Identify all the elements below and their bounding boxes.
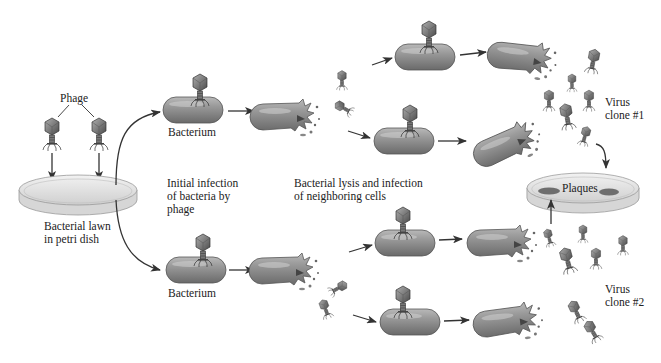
lysed-top-a [485, 36, 560, 83]
virus-clone-1-line2: clone #1 [605, 108, 644, 122]
virus-clone-1-phages [543, 48, 602, 147]
plaques-label: Plaques [562, 182, 598, 195]
bacterium-top [163, 74, 223, 123]
initial-infection-line1: Initial infection [167, 176, 238, 190]
petri-dish-lawn [19, 175, 137, 215]
lysis-label-line1: Bacterial lysis and infection [294, 176, 423, 190]
bacterium-bottom [166, 234, 226, 283]
lysed-bottom-b [471, 300, 545, 344]
phage-1 [43, 118, 61, 151]
branch-arrows-top [348, 58, 392, 138]
arrow [460, 52, 486, 55]
phage-2 [90, 118, 108, 151]
bacterium-bottom-b [380, 286, 440, 335]
released-phages-top [333, 71, 356, 118]
lawn-label-line2: in petri dish [44, 232, 99, 246]
bacterium-top-b [374, 105, 434, 154]
initial-infection-line3: phage [167, 202, 194, 216]
lysed-bottom-a [467, 225, 537, 262]
virus-clone-2-line1: Virus [605, 282, 630, 296]
plaque-2 [599, 189, 619, 196]
lysed-top-b [468, 115, 547, 176]
lysed-top [250, 99, 320, 136]
lysed-bottom [249, 253, 319, 290]
bacterium-bottom-a [375, 207, 435, 256]
lysis-label-line2: of neighboring cells [294, 189, 386, 203]
initial-infection-line2: of bacteria by [167, 189, 230, 203]
bacterium-top-a [395, 21, 455, 70]
released-phages-bottom [317, 279, 349, 321]
arrow [444, 320, 469, 321]
bacterium-label-top: Bacterium [168, 126, 216, 139]
arrow [439, 239, 462, 240]
phage-label: Phage [60, 92, 88, 105]
clone1-to-plaque-arrow [596, 144, 606, 168]
branch-arrows-bottom [349, 245, 376, 322]
virus-clone-2-line2: clone #2 [605, 295, 644, 309]
virus-clone-1-line1: Virus [605, 95, 630, 109]
bacterium-label-bottom: Bacterium [168, 287, 216, 300]
lawn-label-line1: Bacterial lawn [44, 219, 111, 233]
phage-label-lines [58, 105, 94, 117]
plaque-1 [538, 188, 560, 195]
